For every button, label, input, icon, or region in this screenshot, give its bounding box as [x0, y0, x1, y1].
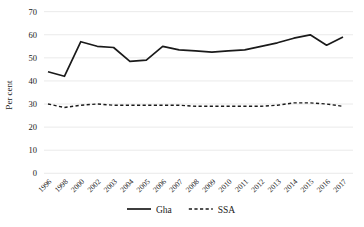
data-series [48, 35, 343, 108]
x-tick-label: 2016 [315, 177, 332, 194]
y-axis-title: Per cent [4, 80, 14, 110]
legend-label: Gha [156, 205, 173, 215]
x-tick-label: 2007 [167, 177, 184, 194]
x-tick-label: 2010 [217, 177, 234, 194]
x-tick-label: 2012 [249, 177, 266, 194]
x-tick-label: 1996 [36, 177, 53, 194]
y-tick-label: 70 [29, 7, 38, 17]
x-tick-label: 2004 [118, 177, 135, 194]
x-tick-label: 2008 [184, 177, 201, 194]
y-tick-label: 30 [29, 99, 38, 109]
x-axis-tick-labels: 1996199820002002200320042005200620072008… [36, 177, 348, 194]
legend-label: SSA [218, 205, 236, 215]
x-tick-label: 2003 [102, 177, 119, 194]
x-tick-label: 2013 [266, 177, 283, 194]
y-axis-tick-labels: 010203040506070 [29, 7, 38, 179]
chart-figure: 010203040506070 Per cent 199619982000200… [0, 0, 364, 227]
x-tick-label: 2005 [135, 177, 152, 194]
y-tick-label: 10 [29, 145, 38, 155]
y-tick-label: 60 [29, 30, 38, 40]
legend: GhaSSA [127, 205, 235, 215]
x-tick-label: 2002 [85, 177, 102, 194]
x-tick-label: 2006 [151, 177, 168, 194]
x-tick-label: 2014 [282, 177, 299, 194]
x-tick-label: 2017 [331, 177, 348, 194]
x-tick-label: 2009 [200, 177, 217, 194]
x-tick-label: 2015 [299, 177, 316, 194]
x-tick-label: 2000 [69, 177, 86, 194]
y-tick-label: 50 [29, 53, 38, 63]
series-line-gha [48, 35, 343, 77]
line-chart: 010203040506070 Per cent 199619982000200… [0, 0, 364, 227]
series-line-ssa [48, 103, 343, 108]
x-tick-label: 2011 [233, 177, 250, 194]
y-tick-label: 0 [33, 168, 37, 178]
x-tick-label: 1998 [53, 177, 70, 194]
y-tick-label: 20 [29, 122, 38, 132]
y-tick-label: 40 [29, 76, 38, 86]
